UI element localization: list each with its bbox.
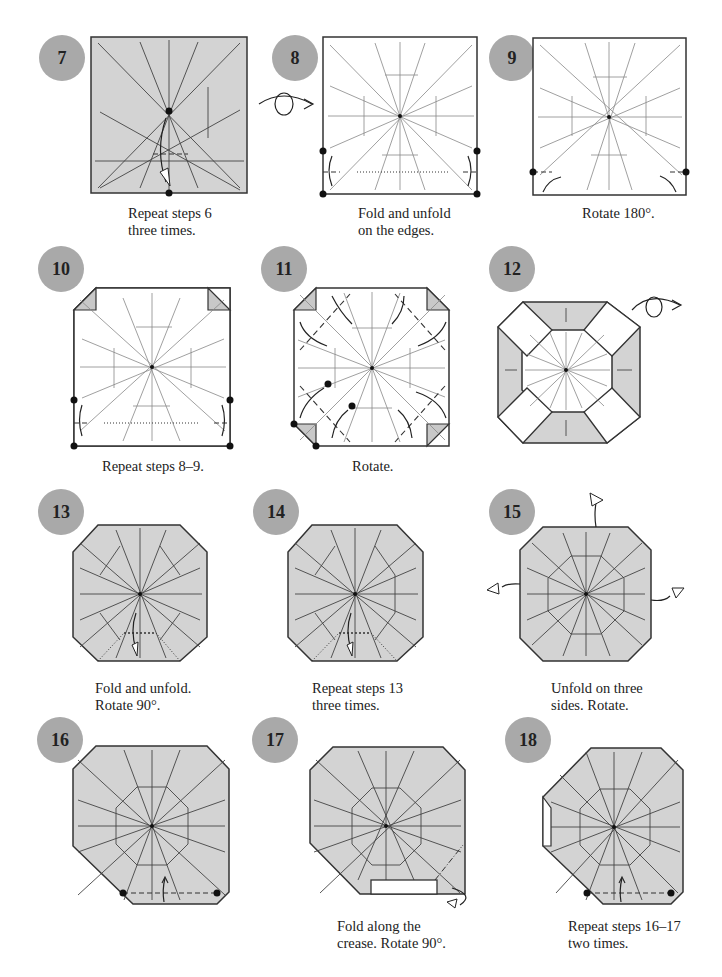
step-18-diagram <box>0 0 722 977</box>
